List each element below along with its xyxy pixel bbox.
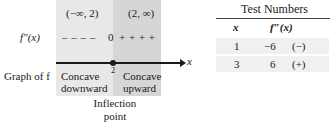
critical-value-label: 2	[111, 66, 115, 75]
row2-sign: (+)	[292, 58, 306, 70]
row1-sign: (−)	[292, 40, 306, 52]
concavity-right-line2: upward	[123, 82, 161, 94]
row1-x: 1	[234, 40, 240, 52]
positive-signs: + + + +	[119, 31, 156, 43]
row2-value: 6	[270, 58, 276, 70]
concavity-left-line1: Concave	[61, 70, 107, 82]
graph-row-label: Graph of f	[4, 70, 50, 82]
concavity-left-line2: downward	[61, 82, 107, 94]
negative-signs: – – – –	[62, 31, 96, 43]
column-header-x: x	[233, 21, 239, 33]
interval-label-left: (−∞, 2)	[66, 7, 98, 19]
arrow-right-icon	[180, 59, 186, 67]
axis-variable-label: x	[187, 55, 192, 67]
concavity-left: Concave downward	[61, 70, 107, 94]
zero-marker: 0	[108, 31, 114, 43]
table-title: Test Numbers	[232, 2, 317, 17]
inflection-line2: point	[90, 110, 140, 123]
column-header-fpp: f″(x)	[270, 21, 293, 33]
table-header-rule	[216, 18, 330, 19]
row1-value: −6	[264, 40, 276, 52]
number-line	[56, 62, 182, 64]
second-derivative-row-label: f″(x)	[20, 31, 40, 43]
concavity-right: Concave upward	[123, 70, 161, 94]
interval-label-right: (2, ∞)	[128, 7, 154, 19]
inflection-line1: Inflection	[90, 97, 140, 110]
inflection-point-label: Inflection point	[90, 97, 140, 123]
row2-x: 3	[234, 58, 240, 70]
concavity-right-line1: Concave	[123, 70, 161, 82]
